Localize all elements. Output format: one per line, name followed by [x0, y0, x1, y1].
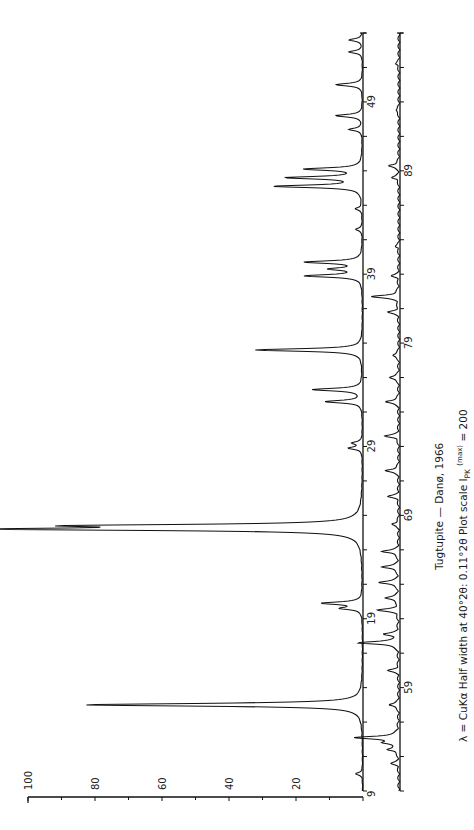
xrd-chart: 10080604020 919293949 59697989 [0, 0, 474, 830]
intensity-axis: 10080604020 [23, 771, 363, 803]
svg-text:19: 19 [366, 612, 377, 625]
chart-subtitle: λ = CuKα Half width at 40°2θ: 0.11°2θ Pl… [456, 409, 472, 742]
svg-text:49: 49 [366, 95, 377, 108]
svg-text:39: 39 [366, 267, 377, 280]
subtitle-suffix: = 200 [457, 409, 469, 445]
subtitle-sub: PK [463, 469, 472, 478]
svg-text:9: 9 [366, 791, 377, 797]
svg-text:59: 59 [403, 681, 414, 694]
diffraction-panel-1: 919293949 [0, 33, 377, 797]
svg-text:29: 29 [366, 440, 377, 453]
svg-text:89: 89 [403, 164, 414, 177]
svg-text:60: 60 [157, 777, 168, 790]
svg-text:20: 20 [291, 777, 302, 790]
chart-title: Tugtupite — Danø, 1966 [433, 443, 445, 570]
svg-text:40: 40 [224, 777, 235, 790]
svg-text:79: 79 [403, 336, 414, 349]
svg-text:69: 69 [403, 509, 414, 522]
svg-text:100: 100 [23, 771, 34, 790]
subtitle-sup: (max) [456, 445, 464, 466]
svg-text:80: 80 [90, 777, 101, 790]
subtitle-prefix: λ = CuKα Half width at 40°2θ: 0.11°2θ Pl… [457, 478, 469, 742]
